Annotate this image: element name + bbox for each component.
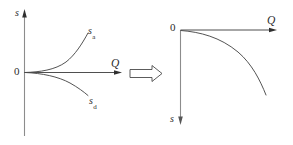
- left-q-axis-arrowhead: [114, 70, 122, 75]
- left-origin-label: 0: [14, 66, 20, 77]
- curve-label-s-d-sub: d: [93, 103, 97, 111]
- right-origin-label: 0: [170, 22, 176, 33]
- left-s-axis-label: s: [15, 8, 19, 18]
- figure-vector-layer: [0, 0, 293, 145]
- left-s-axis-arrowhead: [22, 9, 27, 18]
- curve-label-s-d: sd: [89, 96, 96, 109]
- right-q-axis-arrowhead: [269, 28, 277, 33]
- curve-s-a: [25, 33, 88, 73]
- figure-canvas: s 0 Q sa sd 0 Q s: [0, 0, 293, 145]
- transformation-arrow-shape: [130, 66, 162, 82]
- curve-label-s-a-sub: a: [92, 33, 95, 41]
- left-q-axis-label: Q: [111, 58, 119, 70]
- curve-label-s-a: sa: [88, 26, 95, 39]
- right-plot-group: [178, 28, 277, 125]
- right-s-axis-arrowhead: [178, 117, 183, 126]
- curve-s-right: [181, 31, 266, 96]
- curve-s-d: [25, 73, 88, 96]
- right-q-axis-label: Q: [267, 15, 275, 27]
- right-s-axis-label: s: [170, 114, 174, 124]
- left-plot-group: [22, 9, 122, 136]
- transform-arrow-group: [130, 66, 162, 82]
